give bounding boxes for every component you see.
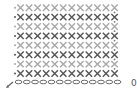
single-crochet-stitch bbox=[60, 5, 66, 11]
single-crochet-stitch bbox=[52, 52, 58, 58]
single-crochet-stitch bbox=[34, 5, 40, 11]
single-crochet-stitch bbox=[103, 61, 109, 67]
single-crochet-stitch bbox=[69, 5, 75, 11]
single-crochet-stitch bbox=[94, 5, 100, 11]
single-crochet-stitch bbox=[43, 33, 49, 39]
single-crochet-stitch bbox=[69, 61, 75, 67]
single-crochet-stitch bbox=[69, 70, 75, 76]
single-crochet-stitch bbox=[86, 52, 92, 58]
single-crochet-stitch bbox=[69, 33, 75, 39]
stitch-row bbox=[14, 21, 118, 30]
single-crochet-stitch bbox=[52, 61, 58, 67]
single-crochet-stitch bbox=[26, 5, 32, 11]
single-crochet-stitch bbox=[60, 52, 66, 58]
single-crochet-stitch bbox=[26, 33, 32, 39]
single-crochet-stitch bbox=[86, 23, 92, 29]
stitch-row bbox=[14, 68, 118, 77]
start-label: 0 bbox=[131, 78, 137, 88]
single-crochet-stitch bbox=[77, 61, 83, 67]
single-crochet-stitch bbox=[26, 23, 32, 29]
single-crochet-stitch bbox=[43, 61, 49, 67]
turning-marker-dot bbox=[114, 30, 116, 32]
single-crochet-stitch bbox=[86, 14, 92, 20]
single-crochet-stitch bbox=[77, 52, 83, 58]
single-crochet-stitch bbox=[52, 42, 58, 48]
single-crochet-stitch bbox=[111, 14, 117, 20]
single-crochet-stitch bbox=[94, 14, 100, 20]
single-crochet-stitch bbox=[86, 70, 92, 76]
single-crochet-stitch bbox=[103, 70, 109, 76]
single-crochet-stitch bbox=[43, 23, 49, 29]
single-crochet-stitch bbox=[43, 5, 49, 11]
turning-marker-dot bbox=[114, 40, 116, 42]
single-crochet-stitch bbox=[77, 23, 83, 29]
single-crochet-stitch bbox=[43, 52, 49, 58]
single-crochet-stitch bbox=[111, 52, 117, 58]
single-crochet-stitch bbox=[34, 14, 40, 20]
single-crochet-stitch bbox=[52, 14, 58, 20]
single-crochet-stitch bbox=[77, 42, 83, 48]
single-crochet-stitch bbox=[17, 5, 23, 11]
chain-stitch bbox=[15, 80, 22, 84]
single-crochet-stitch bbox=[77, 70, 83, 76]
turning-marker-dot bbox=[114, 21, 116, 23]
chain-stitch bbox=[81, 80, 88, 84]
single-crochet-stitch bbox=[111, 61, 117, 67]
chain-stitch bbox=[98, 80, 105, 84]
single-crochet-stitch bbox=[77, 14, 83, 20]
chain-stitch bbox=[48, 80, 55, 84]
single-crochet-stitch bbox=[17, 61, 23, 67]
single-crochet-stitch bbox=[60, 70, 66, 76]
turning-marker-dot bbox=[114, 12, 116, 14]
single-crochet-stitch bbox=[77, 5, 83, 11]
single-crochet-stitch bbox=[111, 42, 117, 48]
single-crochet-stitch bbox=[26, 52, 32, 58]
single-crochet-stitch bbox=[94, 70, 100, 76]
single-crochet-stitch bbox=[26, 61, 32, 67]
turning-marker-dot bbox=[14, 26, 16, 28]
single-crochet-stitch bbox=[34, 52, 40, 58]
single-crochet-stitch bbox=[94, 61, 100, 67]
single-crochet-stitch bbox=[17, 42, 23, 48]
foundation-chain bbox=[15, 80, 121, 84]
chain-stitch bbox=[23, 80, 30, 84]
single-crochet-stitch bbox=[69, 52, 75, 58]
single-crochet-stitch bbox=[103, 14, 109, 20]
single-crochet-stitch bbox=[17, 14, 23, 20]
single-crochet-stitch bbox=[60, 14, 66, 20]
single-crochet-stitch bbox=[69, 42, 75, 48]
single-crochet-stitch bbox=[103, 33, 109, 39]
turning-marker-dot bbox=[14, 44, 16, 46]
single-crochet-stitch bbox=[60, 61, 66, 67]
single-crochet-stitch bbox=[60, 42, 66, 48]
single-crochet-stitch bbox=[94, 42, 100, 48]
single-crochet-stitch bbox=[86, 33, 92, 39]
single-crochet-stitch bbox=[34, 23, 40, 29]
single-crochet-stitch bbox=[17, 52, 23, 58]
single-crochet-stitch bbox=[86, 42, 92, 48]
single-crochet-stitch bbox=[52, 5, 58, 11]
single-crochet-stitch bbox=[86, 61, 92, 67]
turning-marker-dot bbox=[114, 68, 116, 70]
stitch-rows bbox=[14, 5, 118, 77]
single-crochet-stitch bbox=[103, 5, 109, 11]
single-crochet-stitch bbox=[94, 23, 100, 29]
chain-stitch bbox=[89, 80, 96, 84]
turning-marker-dot bbox=[14, 16, 16, 18]
chain-stitch bbox=[106, 80, 113, 84]
stitch-row bbox=[14, 5, 118, 11]
stitch-row bbox=[14, 12, 118, 21]
single-crochet-stitch bbox=[52, 23, 58, 29]
turning-marker-dot bbox=[14, 73, 16, 75]
turning-marker-dot bbox=[14, 63, 16, 65]
turning-marker-dot bbox=[14, 7, 16, 9]
chain-stitch bbox=[32, 80, 39, 84]
single-crochet-stitch bbox=[17, 33, 23, 39]
single-crochet-stitch bbox=[94, 33, 100, 39]
single-crochet-stitch bbox=[111, 33, 117, 39]
chain-stitch bbox=[56, 80, 63, 84]
single-crochet-stitch bbox=[103, 42, 109, 48]
chain-stitch bbox=[114, 80, 121, 84]
crochet-chart: 0 bbox=[0, 0, 137, 91]
single-crochet-stitch bbox=[111, 70, 117, 76]
